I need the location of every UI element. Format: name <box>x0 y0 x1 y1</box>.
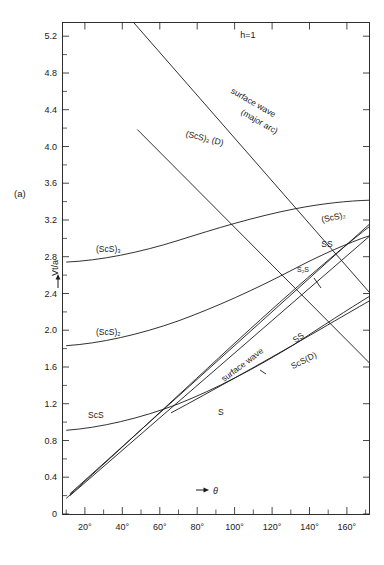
plot-frame <box>63 23 370 515</box>
x-tick-label-3: 80° <box>190 522 204 532</box>
y-tick-label-13: 5.2 <box>44 31 57 41</box>
x-tick-label-1: 40° <box>115 522 129 532</box>
y-tick-label-0: 0 <box>52 509 57 519</box>
x-tick-label-2: 60° <box>153 522 167 532</box>
label-s: S <box>218 407 224 417</box>
y-tick-label-5: 2.0 <box>44 325 57 335</box>
y-tick-label-1: 0.4 <box>44 472 57 482</box>
label-scs3: (ScS)₃ <box>96 244 121 254</box>
y-tick-label-3: 1.2 <box>44 399 57 409</box>
y-tick-label-11: 4.4 <box>44 105 57 115</box>
y-tick-label-10: 4.0 <box>44 142 57 152</box>
x-tick-label-5: 120° <box>263 522 282 532</box>
y-tick-label-2: 0.8 <box>44 436 57 446</box>
curve-surface-wave <box>70 224 370 494</box>
y-tick-label-9: 3.6 <box>44 178 57 188</box>
x-axis-title: θ <box>213 486 218 496</box>
x-axis-arrow-head <box>204 488 210 493</box>
travel-time-chart-figure: (a) <box>0 0 384 565</box>
panel-label: (a) <box>14 188 26 199</box>
label-ss: SS <box>291 330 306 345</box>
curve-surface-wave-major-arc <box>134 23 370 293</box>
curve-labels-group: surface wave (major arc) (ScS)₂ (D) (ScS… <box>88 86 346 420</box>
y-axis-title-group: Vt/a <box>50 260 60 288</box>
curve-scs-d <box>171 301 370 413</box>
x-tick-label-0: 20° <box>78 522 92 532</box>
y-tick-label-12: 4.8 <box>44 68 57 78</box>
label-scs-d: SᴄS(D) <box>289 350 318 371</box>
x-tick-label-7: 160° <box>338 522 357 532</box>
label-scs: SᴄS <box>88 410 104 420</box>
chart-svg: (a) <box>0 0 384 565</box>
h-equals-annotation: h=1 <box>240 30 255 40</box>
scs-d-tick <box>260 370 266 374</box>
curve-ss <box>70 236 370 496</box>
y-tick-label-8: 3.2 <box>44 215 57 225</box>
curve-s <box>66 227 369 499</box>
label-scs2: (ScS)₂ <box>96 327 121 337</box>
y-axis-title: Vt/a <box>50 260 60 276</box>
label-ss-right: SS <box>321 239 333 249</box>
label-s2s: S₂S <box>297 266 309 273</box>
x-tick-label-6: 140° <box>300 522 319 532</box>
label-scs2-d: (ScS)₂ (D) <box>185 129 225 148</box>
x-axis-title-group: θ <box>196 486 218 496</box>
curves-group <box>66 23 369 499</box>
x-tick-label-4: 100° <box>225 522 244 532</box>
label-scs2-right: (ScS)₂ <box>320 210 346 225</box>
y-tick-label-4: 1.6 <box>44 362 57 372</box>
y-tick-label-6: 2.4 <box>44 289 57 299</box>
